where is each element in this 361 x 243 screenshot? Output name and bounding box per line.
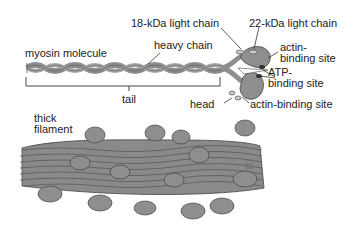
label-filament: filament (34, 124, 73, 135)
label-myosin-molecule: myosin molecule (25, 48, 107, 59)
label-18kda-light-chain: 18-kDa light chain (131, 18, 219, 29)
label-actin-binding-site-top-2: binding site (280, 53, 336, 64)
myosin-tail (27, 63, 225, 73)
label-actin-binding-site-bottom: actin-binding site (250, 99, 333, 110)
label-head: head (190, 99, 214, 110)
label-22kda-light-chain: 22-kDa light chain (249, 18, 337, 29)
label-atp-binding-site-2: binding site (268, 78, 324, 89)
label-tail: tail (122, 94, 136, 105)
myosin-head-upper (240, 46, 270, 67)
label-heavy-chain: heavy chain (154, 40, 213, 51)
